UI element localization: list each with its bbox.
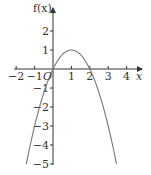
y-axis-ticks: 21−1−2−3−4−5 bbox=[33, 25, 53, 171]
function-graph: −2−11234 21−1−2−3−4−5 x f(x) O bbox=[0, 0, 151, 175]
x-tick-label: 4 bbox=[123, 70, 130, 83]
origin-label: O bbox=[43, 70, 52, 83]
y-tick-label: −5 bbox=[33, 158, 49, 171]
x-tick-label: 2 bbox=[86, 70, 93, 83]
y-tick-label: −4 bbox=[33, 139, 49, 152]
x-tick-label: −2 bbox=[8, 70, 24, 83]
y-axis-label: f(x) bbox=[33, 2, 52, 15]
x-axis-label: x bbox=[136, 70, 143, 83]
y-tick-label: 1 bbox=[42, 44, 49, 57]
y-tick-label: 2 bbox=[42, 25, 49, 38]
x-tick-label: 1 bbox=[68, 70, 75, 83]
x-tick-label: 3 bbox=[105, 70, 112, 83]
